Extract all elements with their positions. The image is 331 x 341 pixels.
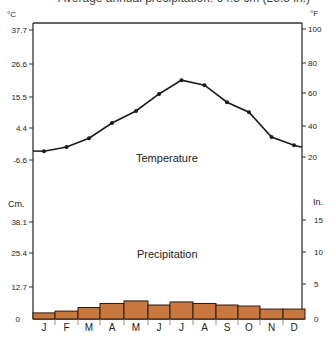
axes <box>33 23 305 319</box>
temperature-point <box>292 143 296 147</box>
precipitation-bar <box>148 305 170 319</box>
temperature-label: Temperature <box>136 152 198 164</box>
temperature-point <box>247 110 251 114</box>
month-label: J <box>179 322 184 333</box>
precipitation-bar <box>78 308 100 319</box>
temperature-point <box>65 145 69 149</box>
precipitation-bar <box>260 309 283 319</box>
fahrenheit-tick-label: 80 <box>308 59 317 68</box>
month-label: A <box>201 322 208 333</box>
in-unit: In. <box>313 197 323 207</box>
precipitation-bar <box>238 306 260 319</box>
temperature-point <box>87 136 91 140</box>
precipitation-bars <box>33 301 305 319</box>
month-label: N <box>268 322 275 333</box>
axis-ticks: 37.726.615.54.4-6.610080604020012.725.43… <box>11 25 323 324</box>
fahrenheit-tick-label: 40 <box>308 122 317 131</box>
precipitation-bar <box>170 302 193 319</box>
precipitation-bar <box>55 311 78 319</box>
climate-chart: 37.726.615.54.4-6.610080604020012.725.43… <box>0 0 331 341</box>
celsius-unit: °C <box>7 10 16 19</box>
month-label: J <box>157 322 162 333</box>
month-label: O <box>245 322 253 333</box>
cm-tick-label: 0 <box>16 315 21 324</box>
temperature-point <box>270 135 274 139</box>
temperature-point <box>180 78 184 82</box>
fahrenheit-unit: °F <box>310 9 318 18</box>
month-label: M <box>85 322 93 333</box>
precipitation-bar <box>100 303 124 319</box>
fahrenheit-tick-label: 60 <box>308 89 317 98</box>
month-label: M <box>132 322 140 333</box>
cm-unit: Cm. <box>8 199 25 209</box>
inch-tick-label: 10 <box>314 248 323 257</box>
temperature-point <box>42 149 46 153</box>
temperature-point <box>110 121 114 125</box>
precipitation-bar <box>193 303 216 319</box>
inch-tick-label: 15 <box>314 216 323 225</box>
temperature-point <box>225 100 229 104</box>
fahrenheit-tick-label: 100 <box>308 25 322 34</box>
fahrenheit-tick-label: 20 <box>308 153 317 162</box>
precipitation-bar <box>33 313 55 319</box>
precipitation-bar <box>216 305 238 319</box>
month-label: D <box>290 322 297 333</box>
month-label: S <box>224 322 231 333</box>
celsius-tick-label: 37.7 <box>11 26 27 35</box>
celsius-tick-label: 4.4 <box>16 124 28 133</box>
precipitation-bar <box>283 309 305 319</box>
month-label: A <box>109 322 116 333</box>
celsius-tick-label: 26.6 <box>11 60 27 69</box>
precipitation-bar <box>124 301 148 319</box>
temperature-point <box>203 83 207 87</box>
cm-tick-label: 12.7 <box>11 283 27 292</box>
temperature-line <box>33 80 302 151</box>
temperature-point <box>157 92 161 96</box>
inch-tick-label: 5 <box>314 280 319 289</box>
precipitation-label: Precipitation <box>137 248 198 260</box>
celsius-tick-label: -6.6 <box>13 156 27 165</box>
cm-tick-label: 38.1 <box>11 218 27 227</box>
celsius-tick-label: 15.5 <box>11 93 27 102</box>
cm-tick-label: 25.4 <box>11 249 27 258</box>
month-labels: JFMAMJJASOND <box>42 322 298 333</box>
temperature-point <box>134 109 138 113</box>
inch-tick-label: 0 <box>314 315 319 324</box>
month-label: F <box>63 322 69 333</box>
month-label: J <box>42 322 47 333</box>
